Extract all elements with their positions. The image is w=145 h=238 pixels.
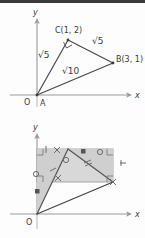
y-axis-label: y (32, 123, 38, 132)
side-label-AC: √5 (38, 50, 49, 60)
y-axis-label: y (32, 8, 38, 17)
x-axis-label: x (134, 210, 140, 219)
x-axis (10, 92, 132, 98)
x-axis-label: x (134, 91, 140, 100)
right-angle-mark-at-C (64, 42, 72, 48)
point-label-A: A (40, 99, 46, 108)
origin-label: O (26, 218, 32, 227)
vertex-A-dot (36, 94, 39, 97)
x-axis (10, 211, 132, 217)
side-label-AB: √10 (62, 66, 79, 76)
vertex-C-dot (67, 39, 70, 42)
vertex-B-dot (112, 62, 115, 65)
point-label-B: B(3, 1) (116, 55, 143, 64)
side-label-CB: √5 (92, 36, 103, 46)
panel-triangle-with-side-lengths: y x O C(1, 2) B(3, 1) A √5 √5 (0, 0, 145, 119)
point-label-C: C(1, 2) (55, 26, 82, 35)
panel-triangle-in-bounding-rectangle: y x O (0, 119, 145, 238)
origin-label: O (24, 98, 30, 107)
figure-page: y x O C(1, 2) B(3, 1) A √5 √5 (0, 0, 145, 238)
